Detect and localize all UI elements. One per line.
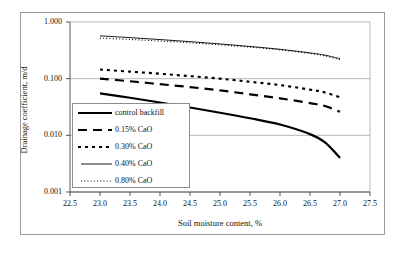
y-tick-label: 0.010 [0,130,62,139]
chart-figure: 1.0000.1000.0100.00122.523.023.524.024.5… [0,0,407,254]
legend-label: control backfill [115,108,164,117]
x-tick-label: 27.5 [350,199,390,208]
x-axis-title: Soil moisture content, % [70,218,370,228]
legend-swatch-control-backfill [77,107,113,119]
legend-item: 0.80% CaO [73,172,189,189]
legend-item: 0.15% CaO [73,121,189,138]
y-axis-title: Drainage coefficient, m/d [19,40,29,180]
y-tick-label: 0.001 [0,187,62,196]
legend-label: 0.15% CaO [115,125,152,134]
legend-item: 0.40% CaO [73,155,189,172]
plot-canvas [0,0,407,254]
legend-swatch-040-cao [77,158,113,170]
legend-item: 0.30% CaO [73,138,189,155]
y-tick-label: 1.000 [0,17,62,26]
legend-swatch-015-cao [77,124,113,136]
chart-legend: control backfill 0.15% CaO 0.30% CaO 0.4… [72,103,190,188]
legend-label: 0.30% CaO [115,142,152,151]
legend-item: control backfill [73,104,189,121]
legend-swatch-030-cao [77,141,113,153]
legend-label: 0.40% CaO [115,159,152,168]
legend-swatch-080-cao [77,175,113,187]
legend-label: 0.80% CaO [115,176,152,185]
y-tick-label: 0.100 [0,74,62,83]
